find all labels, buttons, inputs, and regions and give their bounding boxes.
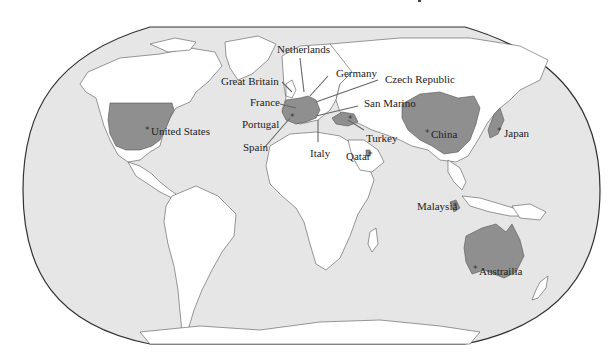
star-icon: * — [497, 126, 502, 136]
label-france: France — [250, 96, 280, 108]
label-united-states: United States — [151, 125, 210, 137]
label-great-britain: Great Britain — [221, 75, 279, 87]
label-china: China — [431, 128, 457, 140]
label-malaysia: Malaysia — [417, 200, 457, 212]
cropped-title-fragment — [418, 0, 421, 2]
label-italy: Italy — [310, 147, 331, 159]
star-icon: * — [348, 114, 353, 124]
star-icon: * — [425, 128, 430, 138]
star-icon: * — [368, 150, 373, 160]
label-portugal: Portugal — [242, 118, 279, 130]
label-spain: Spain — [243, 141, 269, 153]
label-australia: Austrailia — [479, 265, 522, 277]
star-icon: * — [145, 125, 150, 135]
label-turkey: Turkey — [366, 132, 398, 144]
label-netherlands: Netherlands — [277, 43, 330, 55]
star-icon: * — [473, 264, 478, 274]
star-icon: * — [453, 201, 458, 211]
star-icon: * — [290, 112, 295, 122]
world-map: Netherlands Great Britain Germany Czech … — [0, 0, 613, 360]
label-czech-republic: Czech Republic — [385, 73, 455, 85]
map-svg: Netherlands Great Britain Germany Czech … — [0, 0, 613, 360]
label-san-marino: San Marino — [364, 97, 416, 109]
label-japan: Japan — [504, 127, 530, 139]
label-germany: Germany — [336, 67, 377, 79]
